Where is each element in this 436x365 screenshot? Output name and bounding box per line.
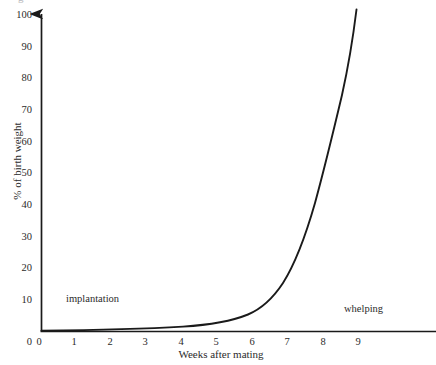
x-tick-5: 5 (207, 337, 225, 348)
y-tick-0: 0 (6, 337, 32, 348)
annotation-whelping: whelping (344, 303, 383, 314)
growth-chart-figure: g - - 100 90 80 70 60 50 40 30 20 10 0 0… (0, 0, 436, 365)
x-tick-9: 9 (349, 337, 367, 348)
x-tick-0: 0 (30, 337, 48, 348)
x-tick-3: 3 (136, 337, 154, 348)
y-tick-30: 30 (6, 232, 32, 243)
y-tick-70: 70 (6, 105, 32, 116)
y-axis-title: % of birth weight (11, 116, 23, 206)
y-tick-80: 80 (6, 73, 32, 84)
x-axis-title: Weeks after mating (141, 348, 301, 360)
x-tick-2: 2 (101, 337, 119, 348)
y-tick-10: 10 (6, 295, 32, 306)
x-tick-1: 1 (65, 337, 83, 348)
y-tick-20: 20 (6, 263, 32, 274)
y-tick-90: 90 (6, 42, 32, 53)
x-tick-8: 8 (314, 337, 332, 348)
annotation-implantation: implantation (66, 293, 119, 304)
x-tick-4: 4 (172, 337, 190, 348)
y-tick-100: 100 (6, 10, 32, 21)
growth-curve (42, 10, 357, 331)
x-tick-6: 6 (243, 337, 261, 348)
x-tick-7: 7 (278, 337, 296, 348)
